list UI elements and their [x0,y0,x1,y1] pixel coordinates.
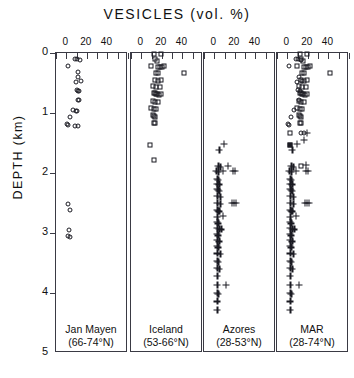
data-point [75,124,80,129]
data-point [155,100,160,105]
data-point [289,266,296,273]
data-point [161,64,166,69]
data-point [158,91,163,96]
data-point [301,100,306,105]
data-point [305,200,312,207]
x-tick [214,53,215,59]
data-point [301,71,306,76]
panel-region-name: Azores [204,323,274,336]
data-point [304,168,311,175]
data-point [294,64,299,69]
data-point [219,168,226,175]
panel-caption: Azores(28-53°N) [204,323,274,348]
data-point [287,306,294,313]
vesicles-depth-figure: VESICLES (vol. %) DEPTH (km) 012345 Jan … [0,0,354,378]
data-point [66,64,71,69]
data-point [78,79,83,84]
x-tick [266,53,267,59]
y-tick-label: 2 [34,165,48,177]
y-tick-label: 4 [34,285,48,297]
x-tick-label: 40 [319,36,335,47]
data-point [76,89,81,94]
y-tick-label: 0 [34,45,48,57]
data-point [300,137,307,144]
data-point [152,121,157,126]
x-tick-label: 40 [246,36,262,47]
data-point [66,123,71,128]
data-point [295,281,302,288]
x-tick [128,53,129,59]
x-tick [87,53,88,59]
data-point [158,78,163,83]
x-tick [287,53,288,59]
data-point [289,115,294,120]
data-point [289,147,296,154]
x-tick-label: 0 [132,36,148,47]
data-point [214,306,221,313]
data-point [214,273,221,280]
x-tick-label: 40 [173,36,189,47]
data-point [68,208,73,213]
x-tick [172,53,173,59]
panel-mar: MAR(28-74°N) [276,52,348,352]
y-tick-label: 5 [34,345,48,357]
data-point [151,157,156,162]
data-point [154,59,159,64]
x-tick [182,53,183,59]
panel-region-name: Jan Mayen [56,323,126,336]
x-tick [277,53,278,59]
data-point [77,58,82,63]
y-tick [50,53,56,54]
y-tick [50,173,56,174]
data-point [214,298,221,305]
data-point [231,168,238,175]
data-point [292,168,299,175]
panel-caption: MAR(28-74°N) [277,323,347,348]
y-tick-label: 3 [34,225,48,237]
x-tick [107,53,108,59]
data-point [147,143,152,148]
x-tick [349,53,350,59]
data-point [216,266,223,273]
panel-iceland: Iceland(53-66°N) [130,52,202,352]
data-point [287,281,294,288]
data-point [298,114,303,119]
panel-caption: Iceland(53-66°N) [131,323,201,348]
data-point [287,64,292,69]
data-point [74,109,79,114]
panel-latitude-range: (28-74°N) [277,336,347,349]
data-point [232,200,239,207]
data-point [298,58,303,63]
data-point [216,147,223,154]
data-point [153,107,158,112]
data-point [182,70,187,75]
x-tick [245,53,246,59]
data-point [299,79,304,84]
data-point [222,281,229,288]
x-tick [328,53,329,59]
data-point [158,51,163,56]
x-tick [318,53,319,59]
data-point [288,291,295,298]
data-point [68,234,73,239]
y-tick [50,233,56,234]
data-point [303,85,308,90]
data-point [287,273,294,280]
data-point [76,98,81,103]
x-tick-label: 0 [205,36,221,47]
panel-latitude-range: (66-74°N) [56,336,126,349]
x-tick [235,53,236,59]
panel-caption: Jan Mayen(66-74°N) [56,323,126,348]
x-tick-label: 0 [57,36,73,47]
x-tick [255,53,256,59]
x-tick [141,53,142,59]
x-tick-label: 40 [98,36,114,47]
data-point [304,91,309,96]
data-point [287,123,292,128]
panel-region-name: Iceland [131,323,201,336]
panel-latitude-range: (28-53°N) [204,336,274,349]
x-tick [66,53,67,59]
panel-jan-mayen: Jan Mayen(66-74°N) [55,52,127,352]
x-tick [131,53,132,59]
data-point [157,85,162,90]
